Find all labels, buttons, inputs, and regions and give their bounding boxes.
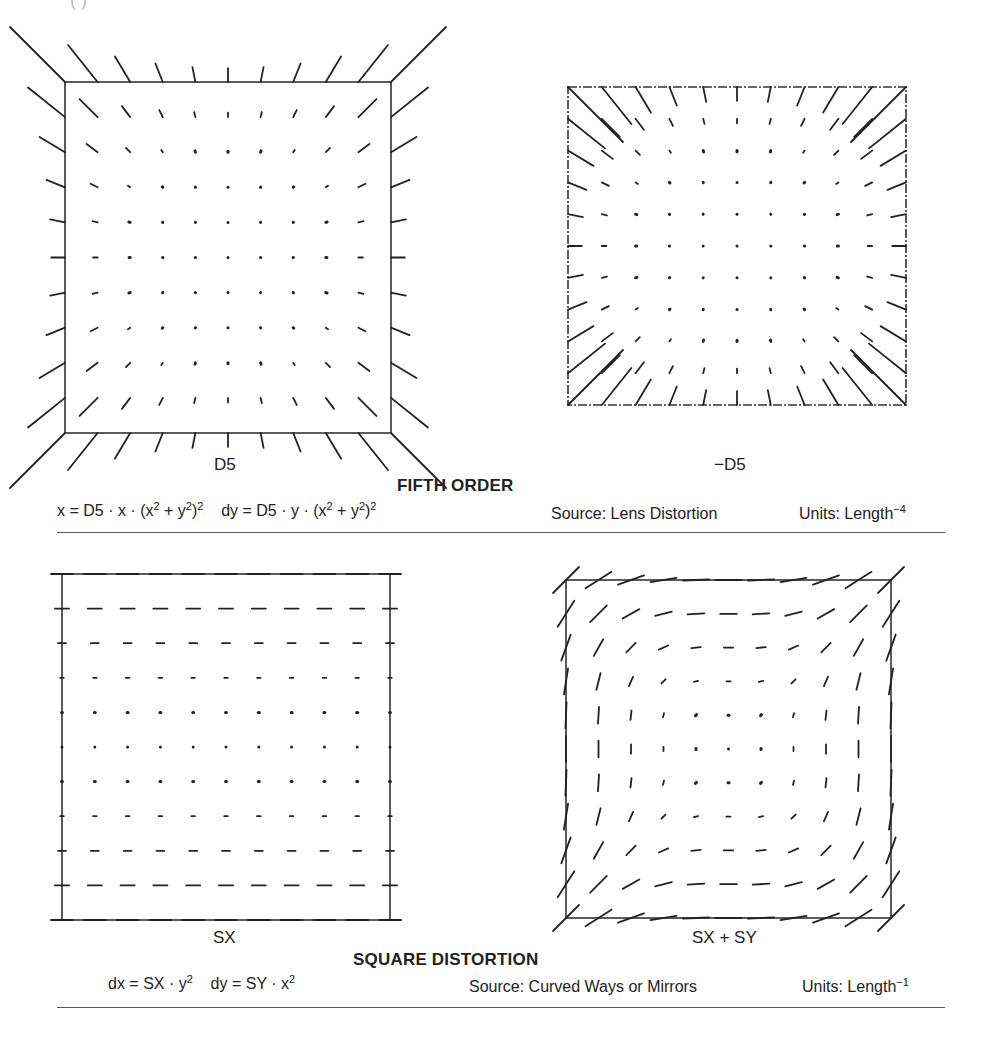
vector-arrow	[590, 876, 607, 893]
vector-arrow	[594, 842, 603, 859]
vector-arrow	[753, 884, 770, 885]
units-square-distortion: Units: Length−1	[802, 978, 909, 996]
vector-arrow	[760, 782, 761, 783]
vector-arrow	[630, 778, 631, 787]
vector-arrow	[748, 917, 774, 918]
vector-field-svg	[0, 0, 996, 1051]
vector-arrow	[629, 677, 633, 686]
vector-arrow	[626, 846, 635, 855]
vector-arrow	[791, 679, 795, 683]
vector-arrow	[854, 639, 863, 656]
vector-arrow	[596, 808, 600, 825]
vector-arrow	[655, 882, 672, 886]
vector-arrow	[824, 812, 828, 821]
vector-arrow	[825, 778, 826, 787]
vector-arrow	[789, 848, 798, 852]
separator-2	[57, 1007, 945, 1008]
vector-arrow	[759, 816, 763, 817]
vector-arrow	[688, 884, 705, 885]
vector-arrow	[590, 605, 607, 622]
source-square-distortion: Source: Curved Ways or Mirrors	[469, 978, 697, 996]
vector-arrow	[824, 677, 828, 686]
vector-arrow	[821, 643, 830, 652]
vector-arrow	[630, 711, 631, 720]
vector-arrow	[659, 646, 668, 650]
vector-arrow	[791, 815, 795, 819]
formula-dy-prefix: dy = SY · x	[211, 975, 289, 992]
vector-arrow	[756, 647, 765, 648]
vector-arrow	[850, 605, 867, 622]
vector-arrow	[850, 876, 867, 893]
vector-arrow	[663, 781, 664, 785]
units-label: Units: Length	[802, 978, 896, 995]
vector-arrow	[785, 882, 802, 886]
vector-arrow	[655, 612, 672, 616]
vector-arrow	[683, 917, 709, 918]
vector-arrow	[759, 681, 763, 682]
vector-arrow	[854, 842, 863, 859]
vector-arrow	[818, 609, 835, 618]
vector-arrow	[821, 846, 830, 855]
vector-arrow	[565, 702, 566, 728]
vector-arrow	[565, 770, 566, 796]
vector-arrow	[623, 880, 640, 889]
vector-arrow	[688, 613, 705, 614]
vector-arrow	[629, 812, 633, 821]
vector-arrow	[856, 673, 860, 690]
section-title-square-distortion: SQUARE DISTORTION	[353, 950, 538, 970]
vector-arrow	[623, 609, 640, 618]
vector-arrow	[793, 781, 794, 785]
vector-arrow	[858, 707, 859, 724]
vector-arrow	[626, 643, 635, 652]
vector-arrow	[596, 673, 600, 690]
vector-arrow	[858, 774, 859, 791]
vector-arrow	[691, 850, 700, 851]
vector-arrow	[663, 713, 664, 717]
vector-arrow	[789, 646, 798, 650]
vector-arrow	[659, 848, 668, 852]
vector-arrow	[890, 770, 891, 796]
vector-arrow	[594, 639, 603, 656]
plot-label-sx: SX	[213, 928, 236, 948]
vector-arrow	[793, 713, 794, 717]
vector-arrow	[818, 880, 835, 889]
vector-arrow	[856, 808, 860, 825]
vector-arrow	[760, 715, 761, 716]
vector-arrow	[785, 612, 802, 616]
plot-label-sx-sy: SX + SY	[692, 928, 757, 948]
vector-plot-sx-sy	[0, 0, 996, 1051]
vector-arrow	[694, 681, 698, 682]
vector-arrow	[753, 613, 770, 614]
vector-arrow	[598, 707, 599, 724]
vector-arrow	[695, 782, 696, 783]
units-exponent: −1	[896, 976, 909, 988]
vector-arrow	[748, 579, 774, 580]
vector-arrow	[890, 702, 891, 728]
vector-arrow	[695, 715, 696, 716]
formula-square-distortion: dx = SX · y2 dy = SY · x2	[108, 975, 295, 993]
exp: 2	[187, 973, 193, 985]
vector-arrow	[598, 774, 599, 791]
formula-dx-prefix: dx = SX · y	[108, 975, 187, 992]
vector-arrow	[694, 816, 698, 817]
vector-arrow	[825, 711, 826, 720]
vector-arrow	[661, 815, 665, 819]
vector-arrow	[683, 579, 709, 580]
exp: 2	[289, 973, 295, 985]
vector-arrow	[756, 850, 765, 851]
vector-arrow	[691, 647, 700, 648]
vector-arrow	[661, 679, 665, 683]
